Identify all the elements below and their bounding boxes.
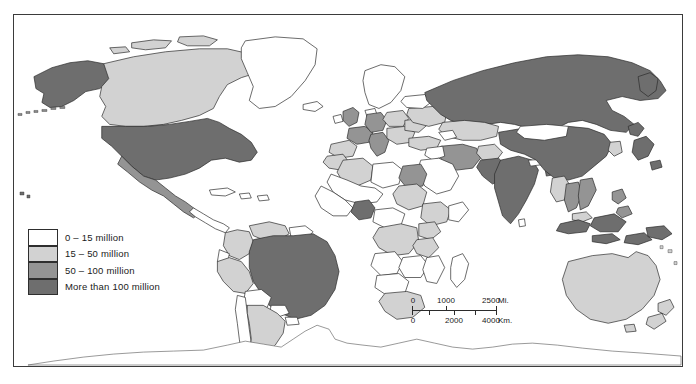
scale-tick-up-1 — [446, 306, 447, 311]
scale-km-tick-2000: 2000 — [445, 315, 463, 326]
scale-bar-kilometers-labels: 0 2000 4000 Km. — [412, 315, 516, 326]
region-new-zealand[interactable] — [646, 299, 674, 329]
region-madagascar[interactable] — [451, 254, 469, 288]
region-peru[interactable] — [217, 258, 253, 294]
region-sudan[interactable] — [393, 184, 427, 210]
region-japan[interactable] — [628, 122, 662, 170]
region-uruguay[interactable] — [285, 317, 299, 325]
region-indonesia[interactable] — [556, 214, 652, 245]
world-population-map-page: 0 – 15 million 15 – 50 million 50 – 100 … — [0, 0, 696, 384]
legend-row-0[interactable]: 0 – 15 million — [28, 229, 160, 246]
region-iceland[interactable] — [303, 102, 323, 112]
legend-row-50-100[interactable]: 50 – 100 million — [28, 262, 160, 279]
region-tasmania[interactable] — [624, 324, 636, 332]
region-antarctica[interactable] — [28, 325, 681, 365]
map-scale-bar: 0 1000 2500 Mi. 0 2000 4000 Km. — [412, 295, 516, 326]
region-united-kingdom[interactable] — [343, 107, 359, 126]
region-kenya[interactable] — [419, 222, 441, 240]
region-central-america[interactable] — [189, 208, 229, 233]
region-aleutian-islands — [18, 106, 65, 115]
region-angola[interactable] — [371, 252, 403, 276]
region-caribbean-islands[interactable] — [209, 188, 269, 201]
region-ireland[interactable] — [333, 114, 343, 123]
scale-miles-tick-1000: 1000 — [437, 295, 455, 306]
legend-row-more-than-100[interactable]: More than 100 million — [28, 279, 160, 296]
region-alaska[interactable] — [34, 61, 112, 108]
region-libya[interactable] — [371, 162, 403, 188]
scale-km-unit: Km. — [498, 315, 512, 326]
region-sri-lanka[interactable] — [518, 219, 525, 227]
region-tanzania[interactable] — [413, 238, 439, 258]
scale-km-tick-0: 0 — [411, 315, 415, 326]
legend-label-15-50-million: 15 – 50 million — [65, 249, 129, 259]
legend-swatch-0-15-million — [28, 229, 58, 246]
region-afghanistan[interactable] — [477, 144, 503, 160]
legend-swatch-more-than-100-million — [28, 279, 58, 296]
region-ethiopia[interactable] — [421, 202, 451, 226]
region-greenland[interactable] — [241, 37, 317, 109]
region-philippines[interactable] — [612, 189, 632, 218]
map-frame: 0 – 15 million 15 – 50 million 50 – 100 … — [13, 14, 683, 367]
region-korea[interactable] — [608, 141, 622, 156]
region-canada[interactable] — [100, 49, 261, 127]
region-nigeria[interactable] — [351, 200, 375, 220]
region-united-states[interactable] — [102, 118, 258, 180]
region-vietnam[interactable] — [578, 178, 596, 210]
legend-label-0-15-million: 0 – 15 million — [65, 233, 124, 243]
region-italy[interactable] — [369, 132, 389, 156]
scale-bar-miles-labels: 0 1000 2500 Mi. — [412, 295, 516, 306]
region-mozambique[interactable] — [423, 256, 445, 284]
region-dem-rep-congo[interactable] — [373, 224, 419, 256]
region-australia[interactable] — [562, 252, 660, 324]
legend-swatch-50-100-million — [28, 262, 58, 279]
legend-label-more-than-100-million: More than 100 million — [65, 282, 160, 292]
legend-row-15-50[interactable]: 15 – 50 million — [28, 246, 160, 263]
scale-miles-unit: Mi. — [498, 295, 509, 306]
legend-swatch-15-50-million — [28, 246, 58, 263]
region-hawaii — [20, 192, 30, 198]
legend-label-50-100-million: 50 – 100 million — [65, 266, 135, 276]
region-pacific-islands — [660, 246, 677, 265]
scale-bar-axis — [412, 306, 516, 315]
world-map-svg[interactable] — [14, 15, 682, 366]
scale-miles-tick-0: 0 — [411, 295, 415, 306]
region-somalia[interactable] — [449, 202, 469, 222]
region-india[interactable] — [495, 156, 539, 224]
map-legend: 0 – 15 million 15 – 50 million 50 – 100 … — [28, 229, 160, 295]
region-norway-sweden-finland[interactable] — [363, 65, 405, 109]
